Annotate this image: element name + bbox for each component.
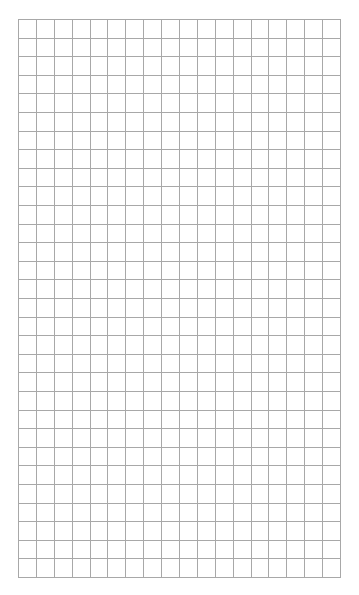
grid-cell	[19, 504, 37, 523]
grid-cell	[55, 485, 73, 504]
grid-cell	[323, 206, 341, 225]
grid-cell	[91, 57, 109, 76]
grid-cell	[144, 541, 162, 560]
grid-cell	[180, 411, 198, 430]
grid-cell	[198, 76, 216, 95]
grid-cell	[216, 225, 234, 244]
grid-cell	[323, 373, 341, 392]
grid-cell	[323, 392, 341, 411]
grid-cell	[126, 559, 144, 578]
grid-cell	[269, 355, 287, 374]
grid-cell	[234, 559, 252, 578]
grid-cell	[269, 169, 287, 188]
grid-cell	[19, 243, 37, 262]
grid-cell	[19, 559, 37, 578]
grid-cell	[126, 504, 144, 523]
grid-cell	[216, 94, 234, 113]
grid-cell	[252, 225, 270, 244]
grid-cell	[19, 299, 37, 318]
grid-cell	[91, 20, 109, 39]
grid-cell	[180, 280, 198, 299]
grid-cell	[144, 225, 162, 244]
grid-cell	[269, 336, 287, 355]
grid-cell	[162, 262, 180, 281]
grid-cell	[19, 150, 37, 169]
grid-cell	[287, 169, 305, 188]
grid-cell	[144, 355, 162, 374]
grid-cell	[323, 243, 341, 262]
grid-cell	[19, 318, 37, 337]
grid-cell	[323, 39, 341, 58]
grid-cell	[234, 169, 252, 188]
grid-cell	[108, 355, 126, 374]
grid-cell	[73, 429, 91, 448]
grid-cell	[305, 392, 323, 411]
grid-cell	[234, 392, 252, 411]
grid-cell	[91, 504, 109, 523]
grid-cell	[73, 206, 91, 225]
grid-cell	[323, 485, 341, 504]
grid-cell	[252, 504, 270, 523]
grid-cell	[234, 411, 252, 430]
grid-cell	[269, 132, 287, 151]
grid-cell	[91, 411, 109, 430]
grid-cell	[216, 522, 234, 541]
grid-cell	[234, 373, 252, 392]
grid-cell	[91, 262, 109, 281]
grid-cell	[323, 132, 341, 151]
grid-cell	[252, 429, 270, 448]
grid-cell	[287, 187, 305, 206]
grid-cell	[198, 20, 216, 39]
grid-cell	[180, 466, 198, 485]
grid-cell	[91, 355, 109, 374]
grid-cell	[234, 150, 252, 169]
grid-cell	[216, 559, 234, 578]
grid-cell	[144, 299, 162, 318]
grid-cell	[216, 504, 234, 523]
grid-cell	[162, 94, 180, 113]
grid-cell	[55, 243, 73, 262]
grid-cell	[108, 76, 126, 95]
grid-cell	[180, 169, 198, 188]
grid-cell	[126, 411, 144, 430]
grid-cell	[55, 559, 73, 578]
grid-cell	[198, 448, 216, 467]
grid-cell	[323, 280, 341, 299]
grid	[18, 19, 341, 578]
grid-cell	[287, 504, 305, 523]
grid-cell	[37, 411, 55, 430]
grid-cell	[162, 485, 180, 504]
grid-cell	[216, 76, 234, 95]
grid-cell	[91, 318, 109, 337]
grid-cell	[323, 262, 341, 281]
grid-cell	[108, 243, 126, 262]
grid-cell	[126, 355, 144, 374]
grid-cell	[37, 522, 55, 541]
grid-cell	[180, 485, 198, 504]
grid-cell	[323, 355, 341, 374]
grid-cell	[19, 429, 37, 448]
grid-cell	[323, 541, 341, 560]
grid-cell	[108, 169, 126, 188]
grid-cell	[269, 504, 287, 523]
grid-cell	[126, 225, 144, 244]
grid-cell	[126, 522, 144, 541]
grid-cell	[37, 206, 55, 225]
grid-cell	[91, 336, 109, 355]
grid-cell	[287, 243, 305, 262]
grid-cell	[305, 225, 323, 244]
grid-cell	[73, 448, 91, 467]
grid-cell	[323, 169, 341, 188]
grid-cell	[234, 225, 252, 244]
grid-cell	[234, 448, 252, 467]
grid-cell	[305, 39, 323, 58]
grid-cell	[108, 373, 126, 392]
grid-cell	[252, 206, 270, 225]
grid-cell	[144, 392, 162, 411]
grid-cell	[108, 57, 126, 76]
grid-cell	[269, 262, 287, 281]
grid-cell	[180, 20, 198, 39]
grid-cell	[252, 187, 270, 206]
grid-cell	[108, 280, 126, 299]
grid-cell	[269, 76, 287, 95]
